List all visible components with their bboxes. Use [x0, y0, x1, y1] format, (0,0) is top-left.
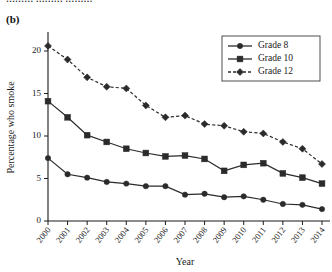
x-tick-label: 2005: [132, 225, 150, 245]
data-point: [261, 197, 266, 202]
data-point: [260, 160, 266, 166]
data-point: [104, 139, 110, 145]
x-tick-label: 2011: [250, 225, 268, 244]
x-tick-label: 2012: [269, 225, 287, 245]
legend-marker: [237, 43, 242, 48]
data-point: [280, 201, 285, 206]
data-point: [221, 168, 227, 174]
y-tick-label: 0: [37, 215, 42, 225]
data-point: [300, 202, 305, 207]
data-point: [221, 122, 228, 129]
data-point: [143, 150, 149, 156]
x-tick-label: 2003: [93, 225, 111, 245]
legend-label: Grade 12: [258, 66, 293, 76]
x-tick-label: 2000: [34, 225, 52, 245]
data-point: [319, 181, 325, 187]
data-point: [201, 121, 208, 128]
legend-label: Grade 10: [258, 53, 293, 63]
data-point: [124, 181, 129, 186]
x-axis-title: Year: [176, 256, 195, 267]
data-point: [84, 132, 90, 138]
data-point: [241, 194, 246, 199]
data-point: [279, 138, 286, 145]
x-tick-label: 2014: [308, 224, 327, 244]
data-point: [163, 154, 169, 160]
data-point: [162, 114, 169, 121]
legend-label: Grade 8: [258, 40, 289, 50]
figure-panel-b: ……… ……… ……… (b) 05101520 200020012002200…: [0, 0, 332, 272]
series-line: [48, 158, 322, 209]
legend-marker: [237, 56, 243, 62]
cut-off-caption-text: ……… ……… ………: [6, 0, 93, 4]
x-tick-label: 2008: [191, 225, 209, 245]
series-grade-8: [45, 155, 324, 211]
data-point: [319, 206, 324, 211]
data-point: [241, 162, 247, 168]
y-axis-ticks: 05101520: [32, 45, 48, 225]
data-point: [123, 146, 129, 152]
x-tick-label: 2002: [73, 225, 91, 245]
data-point: [143, 183, 148, 188]
x-tick-label: 2007: [171, 225, 189, 245]
data-point: [103, 83, 110, 90]
data-point: [65, 114, 71, 120]
x-tick-label: 2013: [289, 225, 307, 245]
x-tick-label: 2010: [230, 225, 248, 245]
y-tick-label: 10: [32, 130, 42, 140]
data-point: [240, 128, 247, 135]
y-axis-title: Percentage who smoke: [5, 81, 16, 174]
x-tick-label: 2004: [113, 224, 132, 244]
x-axis-ticks: 2000200120022003200420052006200720082009…: [34, 221, 327, 245]
panel-label: (b): [6, 13, 19, 25]
data-point: [280, 171, 286, 177]
x-tick-label: 2009: [210, 225, 228, 245]
data-point: [45, 42, 52, 49]
data-point: [221, 195, 226, 200]
data-point: [300, 175, 306, 181]
data-point: [163, 183, 168, 188]
data-point: [260, 130, 267, 137]
data-point: [45, 98, 51, 104]
y-tick-label: 5: [37, 173, 42, 183]
chart-legend: Grade 8Grade 10Grade 12: [222, 36, 320, 81]
line-chart: 05101520 2000200120022003200420052006200…: [0, 0, 332, 272]
x-tick-label: 2001: [54, 225, 72, 245]
data-point: [123, 85, 130, 92]
y-tick-label: 15: [32, 88, 42, 98]
y-tick-label: 20: [32, 45, 42, 55]
data-point: [182, 112, 189, 119]
x-tick-label: 2006: [152, 225, 170, 245]
data-point: [84, 175, 89, 180]
data-point: [65, 172, 70, 177]
data-point: [45, 155, 50, 160]
data-point: [104, 179, 109, 184]
data-point: [202, 156, 208, 162]
data-point: [182, 192, 187, 197]
data-point: [182, 153, 188, 159]
data-point: [202, 191, 207, 196]
data-point: [84, 74, 91, 81]
